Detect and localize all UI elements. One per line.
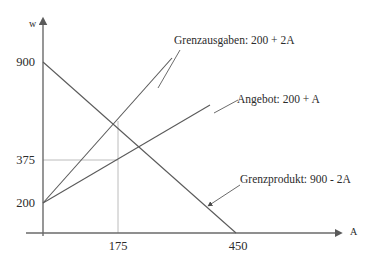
y-axis-label: w — [29, 19, 36, 29]
chart-axes — [26, 24, 336, 236]
x-tick-label-175: 175 — [109, 240, 128, 253]
leader-arrow-grenzprodukt — [211, 185, 240, 204]
series-line-grenzprodukt — [43, 62, 236, 233]
y-tick-label-200: 200 — [0, 197, 35, 210]
y-tick-label-375: 375 — [0, 154, 35, 167]
series-label-grenzausgaben: Grenzausgaben: 200 + 2A — [174, 35, 295, 47]
y-tick-label-900: 900 — [0, 56, 35, 69]
annotation-leaders — [158, 50, 240, 204]
series-label-grenzprodukt: Grenzprodukt: 900 - 2A — [240, 174, 351, 186]
economics-labor-market-chart: w A 900 375 200 175 450 Grenzausgaben: 2… — [0, 0, 376, 277]
series-lines — [43, 58, 236, 233]
series-label-angebot: Angebot: 200 + A — [237, 94, 320, 106]
guide-lines — [43, 121, 118, 233]
x-tick-label-450: 450 — [229, 240, 248, 253]
leader-line-grenzausgaben — [158, 50, 180, 88]
x-axis-label: A — [350, 227, 357, 237]
leader-line-angebot — [214, 100, 238, 113]
